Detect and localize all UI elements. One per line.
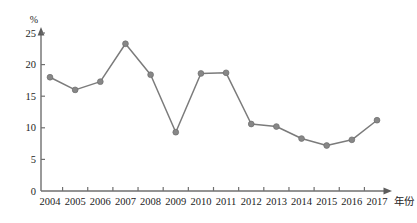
- data-point-marker: [123, 41, 129, 47]
- x-axis-name-label: 年份: [394, 195, 415, 207]
- data-point-marker: [47, 74, 53, 80]
- data-point-marker: [97, 79, 103, 85]
- x-tick-label: 2014: [291, 196, 313, 207]
- chart-page: 0510152025 20042005200620072008200920102…: [0, 0, 417, 223]
- data-point-marker: [299, 136, 305, 142]
- y-tick-label: 25: [26, 28, 37, 39]
- x-tick-label: 2010: [190, 196, 211, 207]
- y-tick-label: 20: [26, 59, 37, 70]
- x-tick-label: 2016: [341, 196, 362, 207]
- y-axis-tick-labels: 0510152025: [26, 28, 37, 197]
- y-tick-label: 10: [26, 122, 37, 133]
- x-tick-label: 2008: [140, 196, 161, 207]
- x-tick-label: 2005: [65, 196, 86, 207]
- data-series-line: [50, 44, 377, 146]
- x-tick-label: 2004: [40, 196, 62, 207]
- x-tick-label: 2009: [165, 196, 186, 207]
- data-point-marker: [72, 87, 78, 93]
- data-point-marker: [148, 72, 154, 78]
- x-tick-label: 2011: [216, 196, 237, 207]
- y-tick-label: 15: [26, 91, 37, 102]
- data-point-marker: [324, 143, 330, 149]
- data-point-marker: [248, 121, 254, 127]
- x-axis-tick-labels: 2004200520062007200820092010201120122013…: [40, 196, 388, 207]
- x-tick-label: 2006: [90, 196, 111, 207]
- x-tick-label: 2015: [316, 196, 337, 207]
- data-point-marker: [273, 124, 279, 130]
- data-point-marker: [374, 117, 380, 123]
- y-axis-arrow: [38, 27, 45, 36]
- data-point-marker: [349, 137, 355, 143]
- y-tick-label: 5: [31, 154, 36, 165]
- x-tick-label: 2007: [115, 196, 136, 207]
- x-tick-label: 2012: [241, 196, 262, 207]
- x-axis-arrow: [384, 188, 393, 195]
- data-point-marker: [198, 71, 204, 77]
- x-tick-label: 2017: [367, 196, 388, 207]
- data-point-markers: [47, 41, 380, 149]
- line-chart: 0510152025 20042005200620072008200920102…: [0, 0, 417, 223]
- data-point-marker: [173, 129, 179, 135]
- axes: [38, 27, 392, 194]
- x-tick-label: 2013: [266, 196, 287, 207]
- y-tick-label: 0: [31, 186, 36, 197]
- data-point-marker: [223, 70, 229, 76]
- y-axis-unit-label: %: [30, 14, 38, 25]
